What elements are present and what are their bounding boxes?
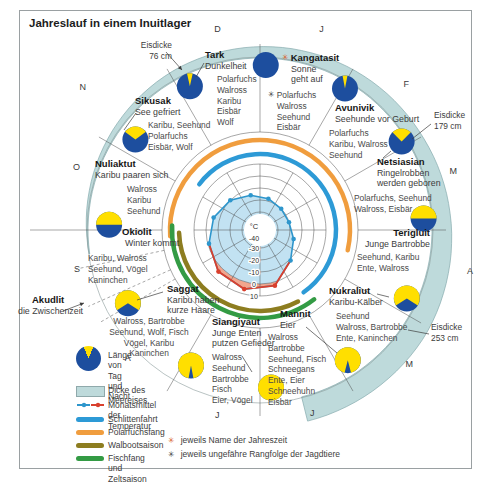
season-netsiasian: NetsiasianRingelrobben werden geboren [377,156,441,189]
temperature-line-icon [76,400,106,410]
animals-nuliaktut: Walross Karibu Seehund [127,184,161,216]
scale-tick-label: 10 [250,293,258,300]
fishing-tent-line-icon [76,456,104,461]
red-asterisk-icon: ✳ [168,436,175,445]
animals-siangiyaut: Walross Seehund Bartrobbe Fisch Eier, Vö… [212,352,253,406]
animals-kangatasit: ✳Polarfuchs Walross Seehund Eisbär [268,90,316,133]
month-letter: J [319,24,324,34]
season-mannit: MannitEier [280,308,311,330]
temperature-point [273,283,278,288]
animals-okiolit: Karibu, Walross Seehund, Vögel Kaninchen [88,253,148,285]
season-nukraliut: NukraliutKaribu-Kälber [329,285,383,307]
season-tark: TarkDunkelheit [205,49,247,71]
day-night-pie [122,126,148,152]
temperature-point [288,258,293,263]
day-night-pie-icon [76,346,101,371]
temperature-point [242,287,247,292]
sea-ice-swatch-icon [76,386,105,397]
rank-asterisk-icon: ✳ [268,90,275,99]
season-avunivik: AvunivikSeehunde vor Geburt [335,102,419,124]
season-name-asterisk-icon: ✳ [282,53,289,62]
ice-thickness-179: Eisdicke179 cm [434,110,465,131]
scale-tick-label: -10 [249,269,259,276]
black-asterisk-icon: ✳ [168,450,175,459]
inuit-year-diagram: Jahreslauf in einem Inuitlager °C-40-30-… [0,0,482,488]
temperature-point [228,198,233,203]
temperature-point [216,269,221,274]
whaleboat-line-icon [76,443,104,448]
sledding-line-icon [76,417,104,422]
temperature-point [211,215,216,220]
day-night-pie [253,52,279,78]
month-letter: J [310,408,315,418]
season-akudlit: Akudlitdie Zwischenzeit [18,294,83,316]
day-night-pie [115,290,141,316]
animals-avunivik: Polarfuchs Karibu, Walross Seehund [329,128,388,160]
fox-trapping-line-icon [76,430,104,435]
animals-tark: Polarfuchs Walross Karibu Eisbär Wolf [217,74,257,128]
month-letter: F [404,79,410,89]
temperature-point [248,193,253,198]
season-siangiyaut: SiangiyautJunge Enten putzen Gefieder [212,316,275,349]
day-night-pie [335,347,361,373]
ice-thickness-76: Eisdicke76 cm [130,40,172,61]
scale-tick-label: -40 [249,235,259,242]
scale-tick-label: °C [250,222,259,231]
month-letter: M [406,359,414,369]
season-sikusak: SikusakSee gefriert [135,95,180,117]
animals-mannit: Walross Bartrobbe Seehund, Fisch Schneeg… [268,332,326,407]
scale-tick-label: 0 [252,281,256,288]
temperature-point [279,206,284,211]
note-season-name: ✳jeweils Name der Jahreszeit [168,435,287,445]
temperature-point [207,241,212,246]
season-saggat: SaggatKaribu haben kurze Haare [167,283,219,316]
animals-terigluit: Seehund, Karibu Ente, Walross [357,252,419,274]
month-letter: N [80,82,87,92]
season-okiolit: OkiolitWinter kommt [122,226,179,248]
animals-nukraliut: Seehund Walross, Bartrobbe Ente, Kaninch… [336,311,407,343]
season-terigluit: TerigluitJunge Bartrobbe [348,227,430,249]
season-kangatasit: ✳Kangatasit Sonne geht auf [282,52,339,85]
temperature-point [287,220,292,225]
animals-sikusak: Karibu, Seehund Polarfuchs Eisbär, Wolf [148,120,210,152]
month-letter: M [449,166,457,176]
temperature-point [266,196,271,201]
animals-netsiasian: Polarfuchs, Seehund Walross, Eisbär [354,193,432,215]
month-letter: J [215,410,220,420]
day-night-pie [394,285,420,311]
day-night-pie [389,129,415,155]
day-night-pie [177,73,203,99]
temperature-point [291,237,296,242]
month-letter: D [214,24,221,34]
month-letter: A [467,266,473,276]
day-night-pie [96,212,122,238]
month-letter: O [73,162,80,172]
month-letter: S [74,264,80,274]
note-rank: ✳jeweils ungefähre Rangfolge der Jagdtie… [168,449,340,459]
scale-tick-label: -20 [249,257,259,264]
scale-tick-label: -30 [249,245,259,252]
ice-thickness-253: Eisdicke253 cm [431,322,462,343]
season-nuliaktut: NuliaktutKaribu paaren sich [95,158,168,180]
